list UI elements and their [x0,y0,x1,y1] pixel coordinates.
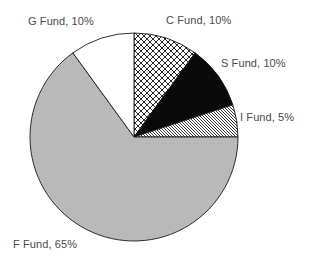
label-g-fund: G Fund, 10% [28,15,94,28]
label-s-fund: S Fund, 10% [221,57,286,70]
label-i-fund: I Fund, 5% [240,111,294,124]
label-f-fund: F Fund, 65% [13,238,77,251]
pie-slices [30,33,238,241]
pie-chart-canvas [0,0,314,263]
pie-chart: G Fund, 10% C Fund, 10% S Fund, 10% I Fu… [0,0,314,263]
label-c-fund: C Fund, 10% [166,14,231,27]
